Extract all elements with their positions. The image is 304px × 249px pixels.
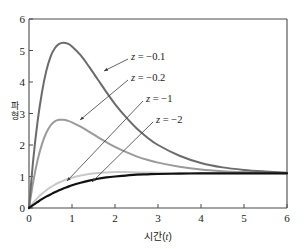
annotation-z-minus-2: z = −2	[155, 114, 182, 125]
y-tick-label: 3	[20, 108, 26, 120]
annotation-z-minus-0-1: z = −0.1	[130, 51, 165, 62]
figure-background	[0, 0, 304, 249]
x-tick-label: 5	[241, 212, 247, 224]
y-tick-label: 2	[20, 139, 26, 151]
x-tick-label: 6	[284, 212, 290, 224]
annotation-eq: =	[135, 72, 146, 83]
annotation-z-minus-1: z = −1	[145, 93, 172, 104]
x-axis-title: 시간(t)	[144, 231, 171, 242]
x-axis-title-close: )	[168, 231, 171, 242]
annotation-value: −1	[161, 93, 172, 104]
x-tick-label: 3	[155, 212, 161, 224]
y-axis-title: 파 형	[11, 101, 20, 121]
x-axis-title-text: 시간(t)	[144, 231, 171, 242]
y-tick-label: 1	[20, 171, 26, 183]
chart-figure: 0 1 2 3 4 5 6 0 1 2 3 4 5 6	[0, 0, 304, 249]
annotation-value: −0.2	[146, 72, 165, 83]
y-axis-title-char-1: 파	[11, 101, 20, 111]
annotation-eq: =	[135, 51, 146, 62]
x-axis-title-prefix: 시간(	[144, 231, 166, 242]
x-tick-label: 4	[198, 212, 204, 224]
y-tick-label: 4	[20, 76, 26, 88]
annotation-value: −0.1	[146, 51, 165, 62]
x-tick-label: 2	[112, 212, 118, 224]
y-tick-label: 0	[20, 202, 26, 214]
y-tick-label: 5	[20, 45, 26, 57]
chart-svg: 0 1 2 3 4 5 6 0 1 2 3 4 5 6	[0, 0, 304, 249]
annotation-value: −2	[171, 114, 182, 125]
y-axis-title-char-2: 형	[11, 111, 19, 121]
y-tick-label: 6	[20, 13, 26, 25]
annotation-eq: =	[160, 114, 171, 125]
x-tick-label: 0	[26, 212, 32, 224]
x-tick-label: 1	[69, 212, 75, 224]
annotation-eq: =	[150, 93, 161, 104]
annotation-z-minus-0-2: z = −0.2	[130, 72, 165, 83]
